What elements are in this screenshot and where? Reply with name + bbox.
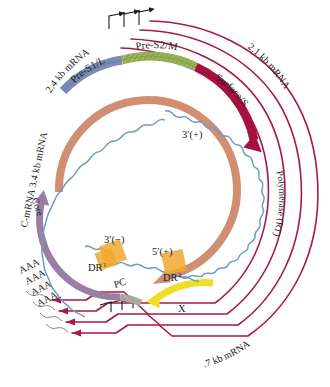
- dr1-superscript: 1: [103, 261, 107, 269]
- three-prime-minus-label: 3′(−): [104, 234, 125, 246]
- dr1-text: DR: [88, 262, 103, 273]
- dr2-superscript: 2: [178, 271, 182, 279]
- three-prime-plus-label: 3′(+): [182, 129, 203, 141]
- x-label: X: [178, 303, 186, 314]
- figure-canvas: AAA AAA AAA AAA: [0, 0, 330, 387]
- hbv-genome-svg: AAA AAA AAA AAA: [0, 0, 330, 387]
- five-prime-plus-label: 5′(+): [152, 246, 173, 258]
- dr2-text: DR: [163, 272, 178, 283]
